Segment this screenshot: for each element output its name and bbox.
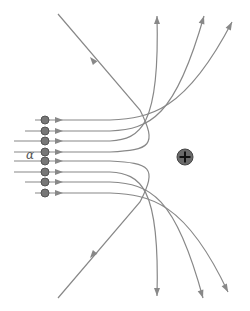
arrow-icon [199, 15, 207, 24]
alpha-particle-icon [41, 116, 49, 124]
arrow-right-icon [55, 190, 63, 196]
arrow-icon [226, 21, 235, 31]
trajectory-top-3 [14, 16, 157, 141]
alpha-particle-icon [41, 137, 49, 145]
trajectory-bot-3 [14, 172, 157, 296]
nucleus [177, 149, 193, 165]
arrow-right-icon [55, 117, 63, 123]
alpha-scattering-diagram: α [0, 0, 250, 311]
trajectory-top-2 [25, 16, 204, 131]
exit-arrow-group [154, 15, 235, 299]
alpha-particle-icon [41, 189, 49, 197]
arrow-right-icon [55, 158, 63, 164]
arrow-icon [154, 288, 160, 296]
arrow-right-icon [55, 149, 63, 155]
alpha-particle-group [41, 116, 49, 197]
alpha-particle-icon [41, 157, 49, 165]
alpha-particle-icon [41, 178, 49, 186]
alpha-particle-icon [41, 168, 49, 176]
arrow-icon [88, 55, 98, 65]
arrow-right-icon [55, 169, 63, 175]
arrow-icon [198, 289, 206, 298]
alpha-label: α [26, 148, 34, 162]
trajectory-top-1 [35, 22, 232, 120]
arrow-right-icon [55, 138, 63, 144]
trajectory-bot-2 [25, 182, 203, 298]
arrow-icon [154, 16, 160, 24]
entry-arrow-group [55, 55, 97, 260]
alpha-particle-icon [41, 148, 49, 156]
trajectory-bot-1 [35, 193, 228, 292]
arrow-right-icon [55, 128, 63, 134]
arrow-right-icon [55, 179, 63, 185]
alpha-particle-icon [41, 127, 49, 135]
arrow-icon [222, 284, 231, 294]
